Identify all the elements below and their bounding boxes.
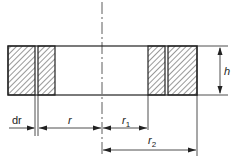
right-inner-hatched-block [148,46,165,95]
r-arrow-left-icon [39,126,47,131]
ring-cross-section-diagram: h dr r r1 r2 [0,0,235,164]
r2-label: r2 [148,134,157,149]
r-arrow-right-icon [93,126,101,131]
r-label: r [68,114,73,126]
left-inner-hatched-block [38,46,55,95]
h-label: h [224,65,230,77]
r1-label: r1 [122,114,131,129]
r2-arrow-left-icon [103,148,111,153]
arrow-up-icon [218,47,223,55]
dr-label: dr [12,114,22,126]
r1-arrow-right-icon [139,126,147,131]
r1-arrow-left-icon [103,126,111,131]
arrow-down-icon [218,86,223,94]
r2-arrow-right-icon [188,148,196,153]
dr-arrow-icon [27,126,35,131]
left-outer-hatched-block [8,46,35,95]
right-outer-hatched-block [168,46,197,95]
